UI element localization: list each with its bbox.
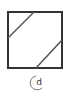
diagonal-line-lower [36,40,62,68]
figure-label: d [31,75,47,89]
diagonal-line-upper [8,12,34,38]
square-outline [8,12,62,68]
